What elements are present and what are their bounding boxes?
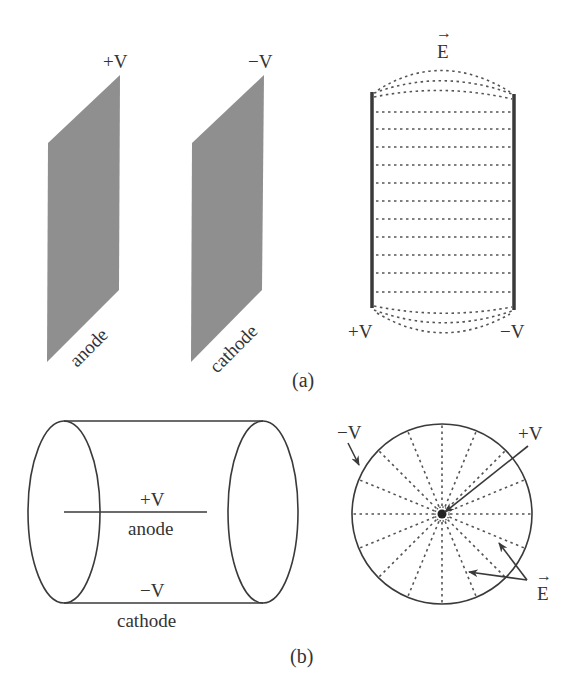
coaxial-and-parallel-plate-diagram: +V anode −V cathode <box>0 0 574 693</box>
cylinder-cathode-voltage: −V <box>140 580 165 601</box>
fringing-field-lines-top <box>374 70 512 99</box>
cylinder-anode-voltage: +V <box>140 489 165 510</box>
center-voltage-pointer <box>445 446 528 512</box>
anode-plate-group: +V anode <box>47 51 128 371</box>
part-b: +V anode −V cathode <box>28 421 552 668</box>
outer-voltage-pointer <box>348 443 359 465</box>
fringing-field-lines-bottom <box>374 306 512 333</box>
center-anode-wire <box>438 510 447 519</box>
anode-voltage-label: +V <box>103 51 128 72</box>
parallel-plate-field-view: → E +V −V <box>348 24 525 342</box>
cross-section-field-vector-arrow: → <box>536 567 552 584</box>
left-plate-voltage-label: +V <box>348 321 373 342</box>
caption-a: (a) <box>292 369 314 392</box>
cathode-voltage-label: −V <box>248 51 273 72</box>
anode-plate <box>47 75 120 362</box>
straight-field-lines <box>376 112 511 292</box>
right-plate-voltage-label: −V <box>500 321 525 342</box>
field-label-e: → E <box>436 24 452 62</box>
cathode-plate-group: −V cathode <box>191 51 273 377</box>
cross-section-field-label: E <box>537 583 549 604</box>
coaxial-cylinder <box>28 421 298 603</box>
coaxial-cross-section: +V −V → E <box>337 422 552 604</box>
cylinder-anode-label: anode <box>128 518 173 539</box>
part-a: +V anode −V cathode <box>47 24 525 392</box>
cathode-plate <box>191 75 264 362</box>
cylinder-cathode-label: cathode <box>117 610 176 631</box>
center-voltage-label: +V <box>518 423 543 444</box>
field-label: E <box>437 41 449 62</box>
cylinder-right-end <box>228 421 298 603</box>
outer-voltage-label: −V <box>337 422 362 443</box>
caption-b: (b) <box>290 645 313 668</box>
field-pointer-1 <box>499 543 527 580</box>
field-pointer-2 <box>469 572 527 580</box>
field-vector-arrow: → <box>436 24 452 41</box>
